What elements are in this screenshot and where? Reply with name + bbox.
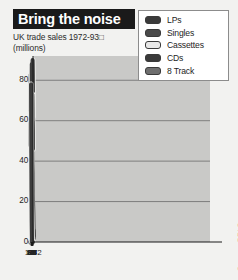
chart-figure: 020406080 197274767880828486889092 Bring… [0,0,238,280]
legend-label: Singles [167,28,194,38]
legend-swatch-icon [145,16,161,24]
source-note: Source: BPI Surveys [236,200,238,272]
page-title: Bring the noise [13,11,121,27]
y-tick-label: 20 [4,196,28,205]
legend-item-cds: CDs [139,52,228,65]
legend-label: 8 Track [167,66,194,76]
y-tick-label: 80 [4,75,28,84]
gridlines [29,80,210,242]
legend-swatch-icon [145,54,161,62]
y-tick-label: 60 [4,115,28,124]
legend-item-lps: LPs [139,14,228,27]
y-tick-label: 0 [4,237,28,246]
chart-legend: LPsSinglesCassettesCDs8 Track [138,10,229,81]
chart-title-bar: Bring the noise [13,9,135,29]
legend-item-cassettes: Cassettes [139,39,228,52]
x-axis-ticks [31,242,33,246]
chart-subtitle: UK trade sales 1972-93□ (millions) [13,32,138,54]
legend-label: Cassettes [167,40,204,50]
y-tick-label: 40 [4,156,28,165]
axis-lines [33,56,222,242]
subtitle-line-1: UK trade sales 1972-93□ [13,32,138,43]
subtitle-line-2: (millions) [13,43,138,54]
legend-item-singles: Singles [139,27,228,40]
legend-label: CDs [167,53,183,63]
legend-swatch-icon [145,41,161,49]
legend-swatch-icon [145,67,161,75]
legend-item-8-track: 8 Track [139,64,228,77]
legend-swatch-icon [145,29,161,37]
x-tick-label: 92 [18,248,44,257]
legend-label: LPs [167,15,181,25]
